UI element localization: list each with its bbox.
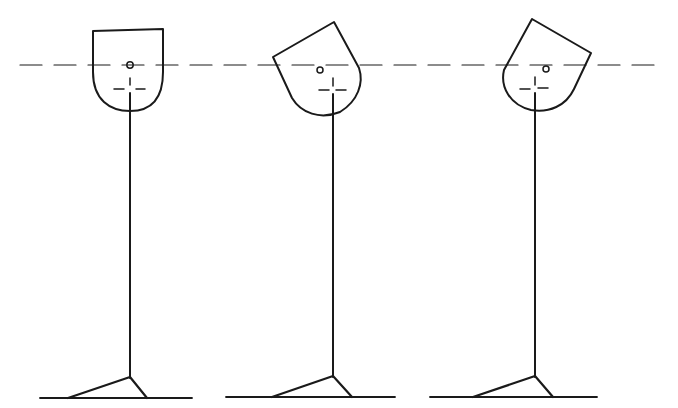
posture-diagram (0, 0, 678, 408)
eye-marker-icon (543, 66, 549, 72)
foot (68, 377, 147, 398)
head-outline (93, 29, 163, 111)
figure-1 (40, 29, 192, 398)
figure-2 (226, 22, 395, 397)
diagram-canvas: Three stick figures showing head posture… (0, 0, 678, 408)
foot (272, 376, 352, 397)
foot (473, 376, 553, 397)
eye-marker-icon (317, 67, 323, 73)
diagram-description: Three stick figures showing head posture… (0, 0, 40, 1)
figure-3 (430, 19, 597, 397)
